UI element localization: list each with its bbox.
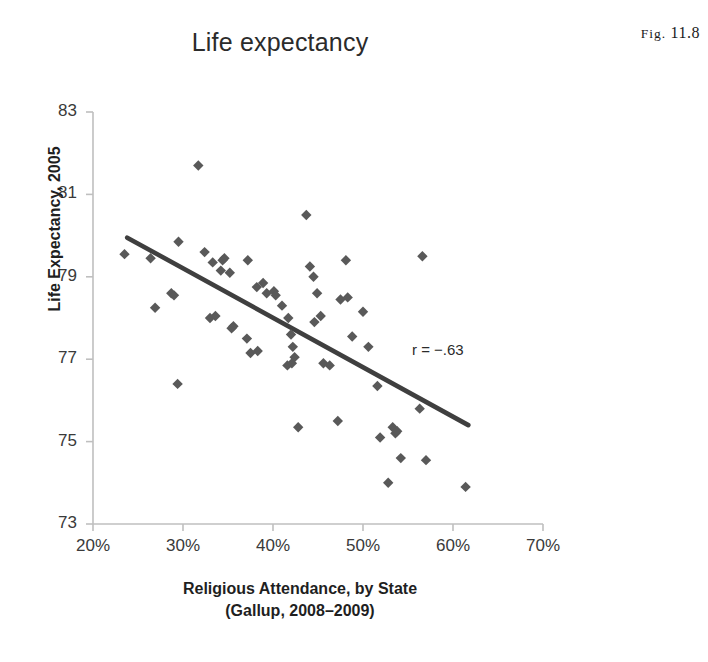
trendline-layer [127,238,468,425]
trend-line [127,238,468,425]
scatter-point [216,265,226,275]
scatter-point [312,288,322,298]
scatter-plot-svg [0,0,708,662]
x-axis-title-line1: Religious Attendance, by State [60,578,540,600]
scatter-point [333,416,343,426]
scatter-point [277,300,287,310]
scatter-point [375,432,385,442]
plot-area: 838179777573 20%30%40%50%60%70% Life Exp… [0,0,708,662]
y-axis-tick-label: 83 [37,101,77,121]
scatter-point [208,257,218,267]
scatter-point [305,261,315,271]
scatter-point [415,403,425,413]
y-axis-tick-label: 77 [37,348,77,368]
scatter-point [242,333,252,343]
scatter-point [372,381,382,391]
x-axis-tick-label: 40% [238,536,308,556]
scatter-point [460,482,470,492]
y-axis-tick-label: 75 [37,431,77,451]
scatter-points-layer [119,160,471,492]
scatter-point [421,455,431,465]
scatter-point [341,255,351,265]
y-axis-tick-label: 73 [37,513,77,533]
correlation-annotation: r = −.63 [412,341,464,358]
y-axis-title: Life Expectancy, 2005 [46,119,64,339]
scatter-point [363,342,373,352]
x-axis-tick-label: 70% [508,536,578,556]
x-axis-tick-label: 60% [418,536,488,556]
scatter-point [301,210,311,220]
scatter-point [119,249,129,259]
scatter-point [417,251,427,261]
scatter-point [358,307,368,317]
scatter-point [308,272,318,282]
x-axis-title-line2: (Gallup, 2008–2009) [60,600,540,622]
x-axis-title: Religious Attendance, by State (Gallup, … [60,578,540,621]
scatter-point [293,422,303,432]
figure-root: Fig. 11.8 Life expectancy 838179777573 2… [0,0,708,662]
scatter-point [225,267,235,277]
scatter-point [383,478,393,488]
scatter-point [193,160,203,170]
scatter-point [172,379,182,389]
x-axis-tick-label: 30% [148,536,218,556]
scatter-point [347,331,357,341]
scatter-point [288,342,298,352]
scatter-point [243,255,253,265]
scatter-point [396,453,406,463]
scatter-point [199,247,209,257]
x-axis-tick-label: 20% [58,536,128,556]
scatter-point [173,237,183,247]
x-axis-tick-label: 50% [328,536,398,556]
scatter-point [150,303,160,313]
